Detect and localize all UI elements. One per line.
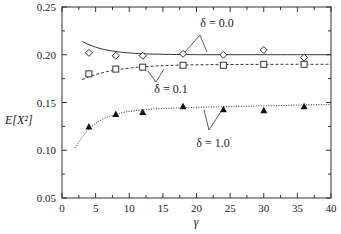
triangle-marker xyxy=(301,103,308,110)
x-tick-label: 35 xyxy=(292,202,304,214)
x-tick-label: 30 xyxy=(258,202,270,214)
square-marker xyxy=(220,62,226,68)
square-marker xyxy=(261,61,267,67)
y-tick-label: 0.15 xyxy=(37,97,57,109)
plot-frame xyxy=(62,7,331,198)
y-tick-label: 0.05 xyxy=(37,192,57,204)
square-marker xyxy=(140,64,146,70)
leader-line xyxy=(148,71,156,82)
leader-line xyxy=(156,69,164,82)
leader-line xyxy=(185,35,200,52)
square-marker xyxy=(113,66,119,72)
x-tick-label: 10 xyxy=(124,202,136,214)
y-axis-label: E[X²] xyxy=(4,113,33,127)
triangle-marker xyxy=(112,110,119,117)
annotations: δ = 0.0δ = 0.1δ = 1.0 xyxy=(148,16,234,150)
x-tick-label: 40 xyxy=(326,202,338,214)
fit-curve-1 xyxy=(82,64,331,79)
x-tick-label: 15 xyxy=(157,202,169,214)
x-tick-label: 20 xyxy=(191,202,203,214)
x-axis-label: γ xyxy=(194,215,199,229)
y-tick-label: 0.10 xyxy=(37,144,57,156)
diamond-marker xyxy=(112,52,119,59)
chart: 05101520253035400.050.100.150.200.25 δ =… xyxy=(0,0,341,234)
triangle-marker xyxy=(260,107,267,114)
fit-curve-0 xyxy=(82,41,331,54)
leader-line xyxy=(209,110,222,130)
x-tick-label: 0 xyxy=(59,202,65,214)
annotation-label-0: δ = 0.0 xyxy=(200,16,233,30)
triangle-marker xyxy=(180,103,187,110)
x-tick-label: 25 xyxy=(225,202,237,214)
triangle-marker xyxy=(85,123,92,130)
square-marker xyxy=(86,71,92,77)
triangle-marker xyxy=(139,109,146,116)
annotation-label-2: δ = 1.0 xyxy=(196,136,229,150)
y-tick-label: 0.25 xyxy=(37,1,57,13)
x-tick-label: 5 xyxy=(93,202,99,214)
diamond-marker xyxy=(85,49,92,56)
annotation-label-1: δ = 0.1 xyxy=(154,82,187,96)
diamond-marker xyxy=(220,51,227,58)
y-tick-label: 0.20 xyxy=(37,49,57,61)
square-marker xyxy=(301,61,307,67)
data-points xyxy=(85,46,307,129)
square-marker xyxy=(180,62,186,68)
diamond-marker xyxy=(260,46,267,53)
leader-line xyxy=(204,110,209,130)
leader-line xyxy=(200,35,207,52)
plot-border xyxy=(62,7,331,198)
